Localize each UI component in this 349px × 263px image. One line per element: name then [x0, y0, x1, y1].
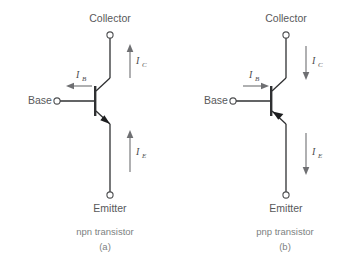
npn-collector-label: Collector	[89, 12, 131, 24]
pnp-emitter-label: Emitter	[269, 202, 303, 214]
pnp-base-current-symbol: I	[248, 69, 253, 80]
pnp-diagram: Collector Base Emitter I C	[204, 12, 323, 252]
pnp-base-current-subscript: B	[255, 75, 260, 83]
pnp-emitter-terminal-node	[283, 192, 289, 198]
npn-collector-current-arrow	[127, 44, 134, 78]
pnp-emitter-current-arrow	[303, 133, 310, 175]
pnp-collector-current-subscript: C	[318, 61, 323, 69]
pnp-emitter-arrowhead-inward	[273, 112, 284, 120]
pnp-base-label: Base	[204, 94, 228, 106]
npn-collector-slant	[96, 78, 110, 91]
npn-collector-terminal-node	[107, 32, 113, 38]
pnp-base-current-arrow	[243, 83, 269, 89]
npn-collector-current-subscript: C	[142, 61, 147, 69]
pnp-collector-terminal-node	[283, 32, 289, 38]
pnp-caption-letter: (b)	[279, 241, 291, 252]
npn-emitter-label: Emitter	[93, 202, 127, 214]
pnp-collector-current-symbol: I	[311, 55, 316, 66]
npn-base-current-arrow	[66, 83, 92, 89]
pnp-emitter-current-symbol: I	[311, 146, 316, 157]
npn-emitter-current-arrow	[127, 130, 134, 172]
npn-diagram: Collector Base Emitter I C	[28, 12, 147, 252]
pnp-collector-label: Collector	[265, 12, 307, 24]
npn-caption-name: npn transistor	[76, 226, 134, 237]
pnp-caption-name: pnp transistor	[256, 226, 314, 237]
npn-caption-letter: (a)	[99, 241, 111, 252]
npn-base-current-symbol: I	[75, 69, 80, 80]
transistor-symbols-figure: Collector Base Emitter I C	[0, 0, 349, 263]
npn-base-label: Base	[28, 94, 52, 106]
npn-base-terminal-node	[54, 98, 60, 104]
npn-emitter-current-subscript: E	[141, 152, 147, 160]
npn-base-current-subscript: B	[82, 75, 87, 83]
pnp-base-terminal-node	[230, 98, 236, 104]
pnp-collector-slant	[272, 78, 286, 91]
npn-collector-current-symbol: I	[135, 55, 140, 66]
pnp-emitter-current-subscript: E	[317, 152, 323, 160]
npn-emitter-current-symbol: I	[135, 146, 140, 157]
npn-emitter-terminal-node	[107, 192, 113, 198]
pnp-collector-current-arrow	[303, 46, 310, 80]
